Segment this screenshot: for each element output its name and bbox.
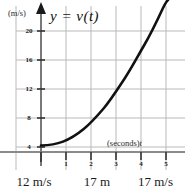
y-tick-label-12: 12 [22, 85, 36, 93]
caption-cell-2: 17 m [68, 174, 126, 190]
x-tick-label-2: 2 [85, 160, 97, 168]
y-tick-label-4: 4 [22, 143, 36, 151]
x-axis-unit-label: (seconds)t [107, 139, 142, 148]
y-tick-label-16: 16 [22, 56, 36, 64]
y-tick-label-20: 20 [22, 27, 36, 35]
y-tick-label-8: 8 [22, 114, 36, 122]
velocity-graph-figure: (m/s) y = v(t) (seconds)t 20 16 12 8 4 1… [0, 0, 185, 194]
y-axis-unit-label: (m/s) [8, 9, 26, 18]
x-tick-label-1: 1 [60, 160, 72, 168]
x-tick-label-3: 3 [110, 160, 122, 168]
x-tick-label-4: 4 [135, 160, 147, 168]
y-axis-arrow-icon [36, 2, 46, 14]
curve-equation-label: y = v(t) [50, 8, 99, 24]
caption-cell-3: 17 m/s [126, 174, 185, 190]
x-tick-label-5: 5 [160, 160, 172, 168]
answer-caption-row: 12 m/s 17 m 17 m/s [0, 170, 185, 194]
x-axis-variable: t [140, 138, 142, 148]
x-axis-unit-text: (seconds) [107, 138, 140, 148]
caption-cell-1: 12 m/s [0, 174, 68, 190]
